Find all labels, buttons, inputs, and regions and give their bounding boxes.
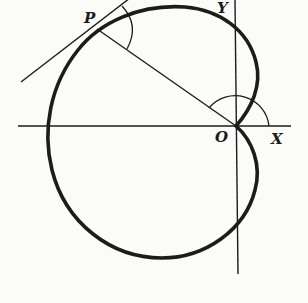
y-axis (235, 0, 238, 274)
label-o: O (215, 128, 228, 146)
label-x: X (270, 130, 284, 148)
radius-vector-op (97, 29, 236, 126)
diagram: P Y O X (0, 0, 308, 303)
label-y: Y (217, 0, 229, 17)
diagram-canvas: P Y O X (0, 0, 308, 303)
label-p: P (83, 9, 96, 27)
